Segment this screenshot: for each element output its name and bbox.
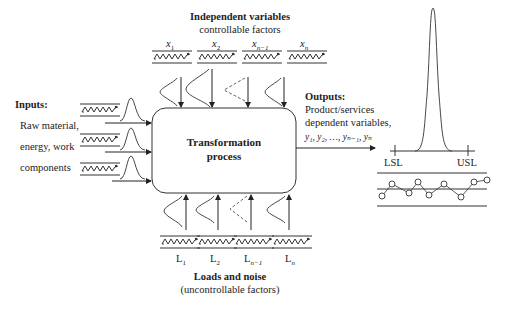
factor-label-xn-1: xn−1: [252, 38, 268, 54]
factor-label-x1: x1: [166, 38, 174, 54]
outputs-title: Outputs:: [305, 91, 345, 103]
input-3-wave: [80, 163, 120, 175]
noise-ln-wave: [272, 236, 312, 248]
lsl-label: LSL: [384, 157, 403, 169]
input-1-wave: [80, 104, 120, 116]
usl-label: USL: [457, 157, 477, 169]
noise-l1-wave: [160, 236, 200, 248]
subtitle-uncontrollable-factors: (uncontrollable factors): [160, 284, 300, 296]
subtitle-controllable-factors: controllable factors: [170, 24, 310, 36]
inputs-title: Inputs:: [15, 99, 48, 111]
title-independent-variables: Independent variables: [170, 11, 310, 23]
noise-label-l1: L1: [176, 253, 186, 269]
noise-ln1-wave: [234, 236, 274, 248]
outputs-vars: y₁, y₂, …, yₙ₋₁, yₙ: [305, 131, 372, 143]
noise-label-ln-1: Ln−1: [244, 253, 262, 269]
noise-label-l2: L2: [210, 253, 220, 269]
outputs-line-1: Product/services: [305, 104, 374, 116]
outputs-line-2: dependent variables,: [305, 117, 391, 129]
inputs-line-2: energy, work: [20, 141, 75, 153]
title-loads-noise: Loads and noise: [160, 271, 300, 283]
factor-label-x2: x2: [212, 38, 220, 54]
process-label-line1: Transformation: [152, 136, 296, 148]
input-2-wave: [80, 134, 120, 146]
inputs-line-3: components: [20, 162, 71, 174]
factor-label-xn: xn: [300, 38, 308, 54]
process-label-line2: process: [152, 150, 296, 162]
noise-label-ln: Ln: [285, 253, 295, 269]
noise-l2-wave: [197, 236, 237, 248]
inputs-line-1: Raw material,: [20, 120, 79, 132]
